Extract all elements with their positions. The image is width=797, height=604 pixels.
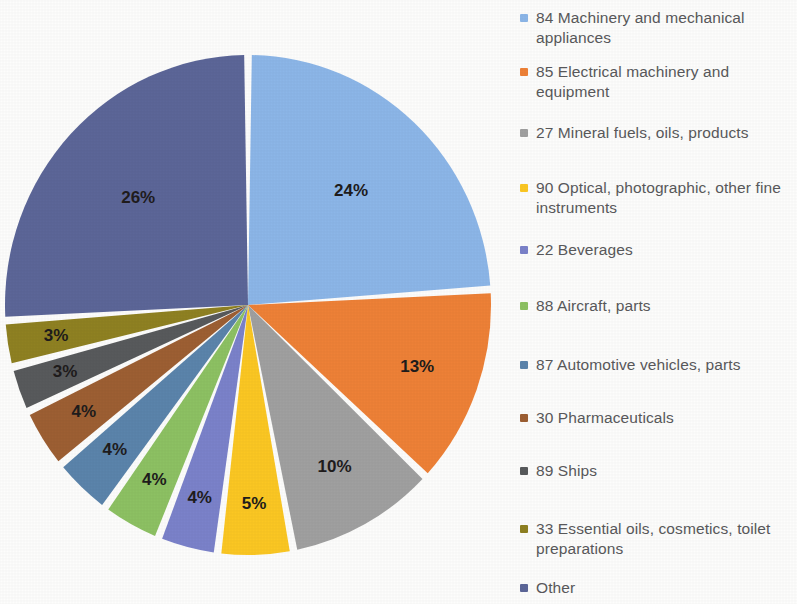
pie-slice[interactable] [5,55,248,317]
legend-color-swatch-icon [520,68,528,76]
chart-legend: 84 Machinery and mechanical appliances85… [520,0,797,604]
legend-item-label: 85 Electrical machinery and equipment [536,62,784,102]
legend-color-swatch-icon [520,467,528,475]
legend-color-swatch-icon [520,361,528,369]
legend-color-swatch-icon [520,184,528,192]
legend-item-label: Other [536,578,575,598]
pie-chart-svg: 24%13%10%5%4%4%4%4%3%3%26% [0,0,500,604]
legend-item-label: 27 Mineral fuels, oils, products [536,123,749,143]
pie-data-label: 5% [242,494,267,513]
legend-item[interactable]: Other [520,578,797,598]
legend-item-label: 87 Automotive vehicles, parts [536,355,741,375]
legend-item[interactable]: 87 Automotive vehicles, parts [520,355,797,375]
legend-item[interactable]: 22 Beverages [520,240,797,260]
legend-item-label: 33 Essential oils, cosmetics, toilet pre… [536,519,784,559]
legend-item[interactable]: 88 Aircraft, parts [520,296,797,316]
legend-item-label: 89 Ships [536,461,597,481]
pie-chart-plot-area: 24%13%10%5%4%4%4%4%3%3%26% [0,0,500,604]
pie-data-label: 10% [318,457,352,476]
legend-color-swatch-icon [520,525,528,533]
legend-item[interactable]: 84 Machinery and mechanical appliances [520,8,797,48]
legend-item[interactable]: 89 Ships [520,461,797,481]
legend-color-swatch-icon [520,14,528,22]
pie-data-label: 24% [334,181,368,200]
legend-item[interactable]: 27 Mineral fuels, oils, products [520,123,797,143]
pie-data-label: 4% [187,488,212,507]
pie-data-label: 3% [44,326,69,345]
legend-color-swatch-icon [520,129,528,137]
legend-item-label: 88 Aircraft, parts [536,296,651,316]
pie-data-label: 3% [53,362,78,381]
pie-slice-group [5,55,491,555]
pie-data-label: 4% [103,440,128,459]
legend-item-label: 30 Pharmaceuticals [536,408,674,428]
legend-color-swatch-icon [520,584,528,592]
legend-color-swatch-icon [520,302,528,310]
pie-slice[interactable] [248,55,490,305]
legend-item[interactable]: 90 Optical, photographic, other fine ins… [520,178,797,218]
legend-color-swatch-icon [520,414,528,422]
legend-item-label: 84 Machinery and mechanical appliances [536,8,784,48]
legend-item[interactable]: 85 Electrical machinery and equipment [520,62,797,102]
pie-data-label: 26% [121,188,155,207]
legend-item-label: 90 Optical, photographic, other fine ins… [536,178,784,218]
legend-item[interactable]: 30 Pharmaceuticals [520,408,797,428]
legend-color-swatch-icon [520,246,528,254]
pie-data-label: 4% [142,470,167,489]
pie-data-label: 13% [400,357,434,376]
legend-item[interactable]: 33 Essential oils, cosmetics, toilet pre… [520,519,797,559]
legend-item-label: 22 Beverages [536,240,633,260]
pie-chart-figure: 24%13%10%5%4%4%4%4%3%3%26% 84 Machinery … [0,0,797,604]
pie-data-label: 4% [72,402,97,421]
